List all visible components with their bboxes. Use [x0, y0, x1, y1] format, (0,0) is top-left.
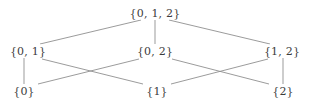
diagram-edge [40, 20, 141, 44]
hasse-diagram: {0, 1, 2}{0, 1}{0, 2}{1, 2}{0}{1}{2} [0, 0, 311, 108]
node-label-n02: {0, 2} [135, 45, 175, 58]
node-label-n0: {0} [11, 85, 37, 98]
node-label-n01: {0, 1} [8, 45, 48, 58]
node-label-n012: {0, 1, 2} [128, 7, 183, 20]
diagram-edge [42, 59, 143, 84]
node-label-n2: {2} [270, 85, 296, 98]
diagram-edge [38, 59, 139, 84]
node-label-n12: {1, 2} [262, 45, 302, 58]
diagram-edge [169, 20, 270, 44]
node-label-n1: {1} [144, 85, 170, 98]
